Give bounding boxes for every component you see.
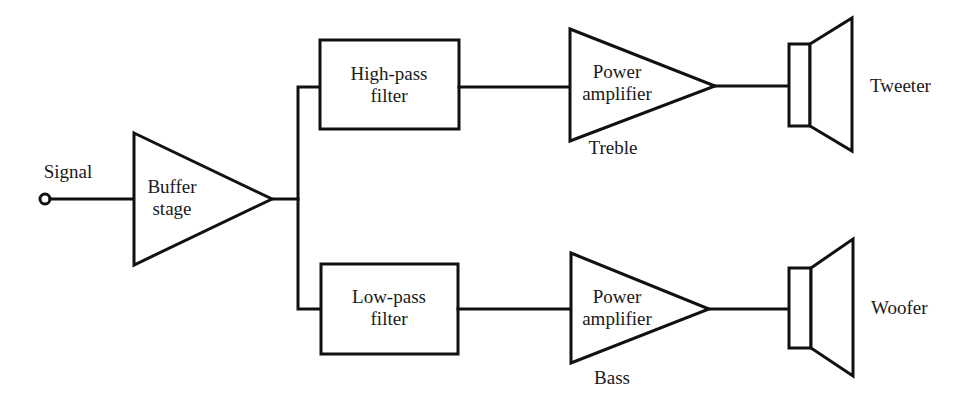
- low-pass-filter: Low-pass filter: [321, 264, 458, 354]
- tweeter-magnet-icon: [789, 44, 810, 126]
- low-pass-label-line2: filter: [371, 308, 409, 329]
- bass-amp-label-line2: amplifier: [582, 308, 652, 329]
- low-pass-label-line1: Low-pass: [352, 286, 426, 307]
- buffer-label-line1: Buffer: [147, 176, 197, 197]
- buffer-label-line2: stage: [152, 198, 191, 219]
- treble-amp-label-line1: Power: [593, 61, 642, 82]
- high-pass-label-line1: High-pass: [350, 63, 427, 84]
- bass-amp-label-line1: Power: [593, 286, 642, 307]
- tweeter-cone-icon: [810, 18, 852, 151]
- woofer-label: Woofer: [871, 297, 928, 318]
- bass-caption: Bass: [594, 367, 630, 388]
- buffer-stage: Buffer stage: [134, 133, 272, 265]
- tweeter-label: Tweeter: [870, 75, 932, 96]
- treble-amp-label-line2: amplifier: [582, 83, 652, 104]
- woofer-magnet-icon: [789, 268, 811, 348]
- high-pass-filter: High-pass filter: [320, 40, 459, 129]
- high-pass-label-line2: filter: [371, 85, 409, 106]
- crossover-block-diagram: Signal Buffer stage High-pass filter Low…: [0, 0, 977, 412]
- treble-power-amplifier: Power amplifier Treble: [570, 29, 715, 158]
- bass-power-amplifier: Power amplifier Bass: [571, 253, 709, 388]
- tweeter-speaker: Tweeter: [789, 18, 932, 151]
- woofer-speaker: Woofer: [789, 239, 928, 376]
- wire-bus-to-highpass: [298, 87, 321, 309]
- woofer-cone-icon: [811, 239, 853, 376]
- treble-caption: Treble: [589, 137, 638, 158]
- signal-label: Signal: [44, 161, 93, 182]
